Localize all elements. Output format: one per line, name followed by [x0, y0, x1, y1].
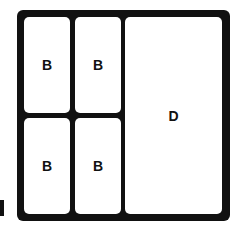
cell-d-right: D — [125, 17, 222, 214]
cell-label: B — [42, 158, 52, 174]
layout-frame: B B B B D — [17, 10, 230, 221]
cell-label: B — [93, 57, 103, 73]
cell-b-top-left: B — [24, 17, 70, 113]
cell-b-top-middle: B — [75, 17, 121, 113]
cell-b-bottom-left: B — [24, 118, 70, 214]
cell-label: D — [168, 108, 178, 124]
cell-label: B — [42, 57, 52, 73]
cell-label: B — [93, 158, 103, 174]
cell-b-bottom-middle: B — [75, 118, 121, 214]
edge-marker — [0, 200, 4, 216]
